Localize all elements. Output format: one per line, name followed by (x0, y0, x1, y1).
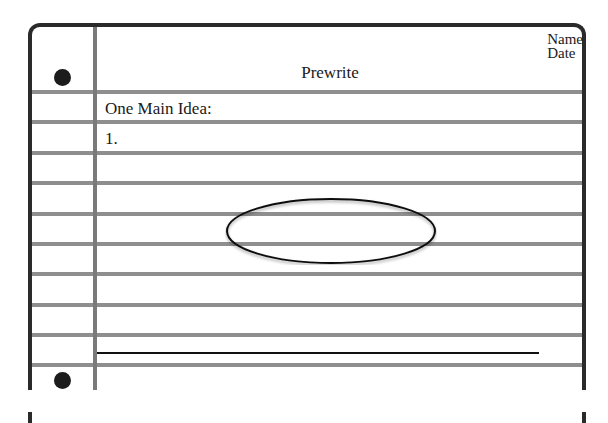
rule-line (32, 151, 582, 155)
rule-line (32, 272, 582, 276)
rule-line (32, 303, 582, 307)
writing-underline (97, 352, 539, 354)
idea-bubble-ellipse (225, 197, 437, 265)
main-idea-prompt: One Main Idea: (105, 100, 212, 117)
rule-line (32, 181, 582, 185)
rule-line (32, 120, 582, 124)
binder-hole-icon (54, 372, 71, 389)
rule-line (32, 90, 582, 94)
margin-line (93, 27, 97, 390)
list-item-1: 1. (105, 130, 118, 147)
page-title: Prewrite (0, 64, 608, 81)
date-label: Date (547, 46, 583, 60)
header-fields: Name Date (547, 32, 583, 60)
name-label: Name (547, 32, 583, 46)
page-bottom (0, 390, 608, 412)
rule-line (32, 363, 582, 367)
rule-line (32, 333, 582, 337)
